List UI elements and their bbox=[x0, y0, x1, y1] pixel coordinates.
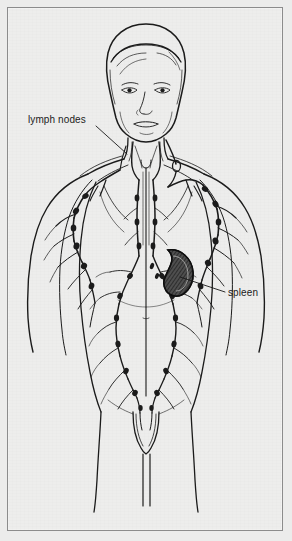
face-features bbox=[120, 83, 172, 135]
lymphatic-system-illustration bbox=[0, 0, 292, 541]
label-lymph-nodes: lymph nodes bbox=[28, 114, 86, 125]
left-axillary-lymph-chain bbox=[44, 170, 120, 327]
head-outline bbox=[107, 24, 186, 142]
inguinal-lymph-chain bbox=[138, 405, 153, 430]
groin-and-legs bbox=[94, 400, 198, 512]
body-outline bbox=[28, 24, 265, 512]
figure-root: lymph nodes spleen bbox=[0, 0, 292, 541]
spleen-organ bbox=[149, 244, 200, 302]
abdominal-lymph-chain-left bbox=[89, 256, 140, 413]
label-spleen: spleen bbox=[228, 287, 258, 298]
